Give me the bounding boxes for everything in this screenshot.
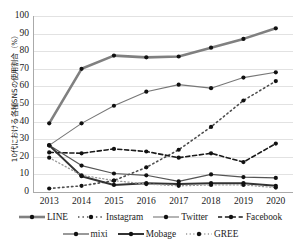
series-lines-layer [33,16,292,192]
data-point-marker [177,148,181,152]
data-point-marker [112,171,116,175]
y-tick-label: 30 [4,134,29,143]
data-point-marker [144,55,148,59]
legend-key-icon [153,212,179,222]
legend-label: LINE [47,212,68,222]
data-point-marker [177,83,181,87]
legend-row-primary: LINEInstagramTwitterFacebook [0,208,301,225]
series-path [49,28,276,123]
data-point-marker [79,67,83,71]
data-point-marker [274,142,278,146]
sns-usage-line-chart: 10代における各種SNSの使用割合（%） 1009080706050403020… [0,0,301,247]
data-point-marker [112,183,116,187]
legend-key-icon [218,212,244,222]
legend-label: Facebook [246,212,282,222]
data-point-marker [144,90,148,94]
legend-label: mixi [91,229,108,239]
legend-row-secondary: mixiMobageGREE [0,225,301,242]
data-point-marker [241,76,245,80]
legend-key-icon [78,212,104,222]
data-point-marker [209,46,213,50]
y-tick-label: 20 [4,152,29,161]
x-tick-label: 2020 [256,196,296,206]
legend-item-mobage[interactable]: Mobage [118,229,176,239]
data-point-marker [47,186,51,190]
data-point-marker [79,173,83,177]
legend-label: Mobage [146,229,176,239]
legend-item-instagram[interactable]: Instagram [78,212,143,222]
data-point-marker [47,150,51,154]
legend-item-line[interactable]: LINE [19,212,68,222]
data-point-marker [112,178,116,182]
data-point-marker [241,98,245,102]
data-point-marker [47,156,51,160]
legend-label: Instagram [106,212,143,222]
data-point-marker [177,54,181,58]
data-point-marker [274,79,278,83]
series-twitter [47,70,278,147]
legend-swatch [186,229,212,239]
data-point-marker [209,125,213,129]
data-point-marker [112,147,116,151]
data-point-marker [79,184,83,188]
legend-key-icon [186,229,212,239]
data-point-marker [274,26,278,30]
legend-swatch [63,229,89,239]
series-path [49,81,276,188]
data-point-marker [79,151,83,155]
data-point-marker [209,86,213,90]
data-point-marker [79,121,83,125]
y-tick-label: 10 [4,169,29,178]
legend-key-icon [118,229,144,239]
legend-label: Twitter [181,212,208,222]
series-facebook [47,142,278,165]
data-point-marker [209,172,213,176]
data-point-marker [274,176,278,180]
y-tick-label: 40 [4,117,29,126]
data-point-marker [144,149,148,153]
y-tick-label: 80 [4,46,29,55]
data-point-marker [47,121,51,125]
legend-swatch [78,212,104,222]
data-point-marker [144,165,148,169]
legend-swatch [118,229,144,239]
legend-swatch [19,212,45,222]
data-point-marker [177,184,181,188]
legend-key-icon [19,212,45,222]
legend-item-gree[interactable]: GREE [186,229,238,239]
legend-key-icon [63,229,89,239]
data-point-marker [209,151,213,155]
data-point-marker [144,182,148,186]
data-point-marker [274,186,278,190]
y-tick-label: 60 [4,81,29,90]
data-point-marker [112,104,116,108]
data-point-marker [144,173,148,177]
data-point-marker [241,37,245,41]
legend-swatch [153,212,179,222]
data-point-marker [241,175,245,179]
data-point-marker [241,160,245,164]
y-tick-label: 100 [4,11,29,20]
data-point-marker [274,70,278,74]
series-path [49,72,276,145]
y-tick-label: 90 [4,29,29,38]
data-point-marker [177,156,181,160]
legend-swatch [218,212,244,222]
y-tick-label: 50 [4,99,29,108]
data-point-marker [79,164,83,168]
legend-item-facebook[interactable]: Facebook [218,212,282,222]
y-tick-label: 70 [4,64,29,73]
legend-item-twitter[interactable]: Twitter [153,212,208,222]
chart-legend: LINEInstagramTwitterFacebook mixiMobageG… [0,208,301,242]
data-point-marker [112,54,116,58]
data-point-marker [209,183,213,187]
data-point-marker [241,183,245,187]
data-point-marker [47,143,51,147]
legend-item-mixi[interactable]: mixi [63,229,108,239]
y-tick-label: 0 [4,187,29,196]
legend-label: GREE [214,229,238,239]
